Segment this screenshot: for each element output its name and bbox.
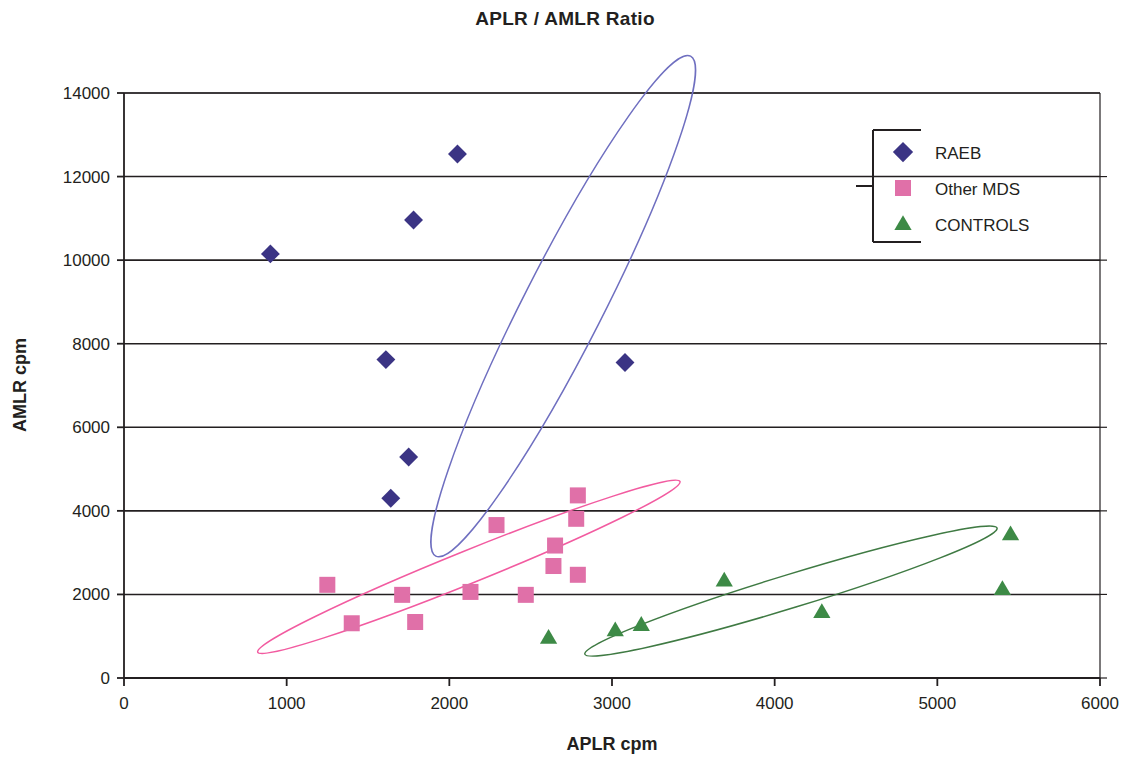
cluster-ellipses: [252, 38, 1002, 670]
data-point-diamond: [404, 211, 423, 230]
data-point-square: [570, 567, 586, 583]
x-tick-label: 5000: [918, 694, 956, 713]
legend-marker-raeb[interactable]: [893, 142, 913, 162]
y-tick-label: 6000: [72, 418, 110, 437]
x-tick-label: 3000: [593, 694, 631, 713]
y-tick-label: 0: [101, 669, 110, 688]
x-tick-label: 6000: [1081, 694, 1119, 713]
cluster-ellipse: [400, 38, 726, 574]
y-axis-ticks: 02000400060008000100001200014000: [63, 84, 1107, 688]
legend-label-raeb[interactable]: RAEB: [935, 144, 981, 163]
data-point-triangle: [813, 603, 830, 618]
data-point-triangle: [633, 616, 650, 631]
y-tick-label: 8000: [72, 335, 110, 354]
data-point-diamond: [381, 489, 400, 508]
data-point-diamond: [448, 145, 467, 164]
y-tick-label: 10000: [63, 251, 110, 270]
y-tick-label: 12000: [63, 168, 110, 187]
data-point-square: [489, 517, 505, 533]
data-point-square: [545, 558, 561, 574]
legend-label-controls[interactable]: CONTROLS: [935, 216, 1029, 235]
legend-marker-other-mds[interactable]: [895, 180, 911, 196]
x-tick-label: 1000: [268, 694, 306, 713]
data-point-triangle: [1002, 525, 1019, 540]
x-axis-ticks: 0100020003000400050006000: [119, 678, 1119, 713]
data-point-triangle: [607, 622, 624, 637]
data-point-diamond: [399, 448, 418, 467]
chart-root: APLR / AMLR Ratio 0200040006000800010000…: [0, 0, 1130, 761]
data-point-square: [547, 538, 563, 554]
scatter-plot: 02000400060008000100001200014000 0100020…: [0, 0, 1130, 761]
data-point-triangle: [716, 572, 733, 587]
data-point-square: [568, 511, 584, 527]
y-tick-label: 14000: [63, 84, 110, 103]
y-tick-label: 2000: [72, 585, 110, 604]
data-point-square: [319, 577, 335, 593]
data-point-square: [518, 587, 534, 603]
legend: RAEBOther MDSCONTROLS: [856, 130, 1029, 242]
data-point-diamond: [616, 353, 635, 372]
legend-label-other-mds[interactable]: Other MDS: [935, 180, 1020, 199]
cluster-ellipse: [580, 512, 1002, 670]
x-tick-label: 2000: [430, 694, 468, 713]
data-point-square: [344, 615, 360, 631]
data-point-diamond: [376, 350, 395, 369]
data-point-square: [570, 487, 586, 503]
data-point-square: [394, 587, 410, 603]
x-tick-label: 0: [119, 694, 128, 713]
data-point-triangle: [540, 629, 557, 644]
y-tick-label: 4000: [72, 502, 110, 521]
cluster-ellipse: [252, 466, 687, 667]
data-point-square: [462, 584, 478, 600]
data-point-square: [407, 614, 423, 630]
y-axis-title: AMLR cpm: [10, 338, 30, 432]
data-point-triangle: [994, 580, 1011, 595]
x-axis-title: APLR cpm: [566, 734, 657, 754]
legend-marker-controls[interactable]: [894, 215, 911, 230]
gridlines: [124, 93, 1100, 594]
x-tick-label: 4000: [756, 694, 794, 713]
